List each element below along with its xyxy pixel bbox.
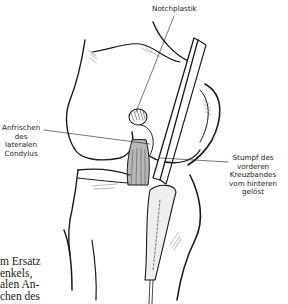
body-text-line: m Ersatz [0,256,41,268]
label-condylus: Anfrischen des lateralen Condylus [2,124,40,158]
femur-top-edge [92,44,180,62]
label-notchplastik: Notchplastik [152,5,197,14]
label-line: Condylus [2,150,40,159]
femur-hatching [88,48,160,63]
label-line: Notchplastik [152,5,197,14]
body-text-fragment: m Ersatz enkels, alen An- chen des [0,256,41,302]
fibula-left [64,230,72,290]
fibula-right [92,240,96,300]
tibia-plateau [78,169,130,175]
femur-condyle-lateral [74,132,133,160]
tibia-hatching-right [170,233,181,250]
graft-channel [145,185,176,280]
meniscus [78,178,128,183]
graft-tail [149,280,153,304]
tibia-left [69,170,78,255]
femur-left-edge [67,40,85,148]
leader-notchplastik [136,16,174,112]
patella-outer [188,84,220,165]
leader-condylus [44,130,150,144]
body-text-line: chen des [0,291,41,303]
notch-hatching [131,110,145,121]
tibia-right [177,175,200,300]
label-line: gelöst [229,188,277,197]
acl-stump [127,140,149,185]
knee-illustration [0,0,288,304]
label-stumpf: Stumpf des vorderen Kreuzbandes vom hint… [229,154,277,197]
femur-condyle-medial [142,150,200,163]
tibia-hatching [92,184,117,189]
patella-inner [200,90,208,142]
